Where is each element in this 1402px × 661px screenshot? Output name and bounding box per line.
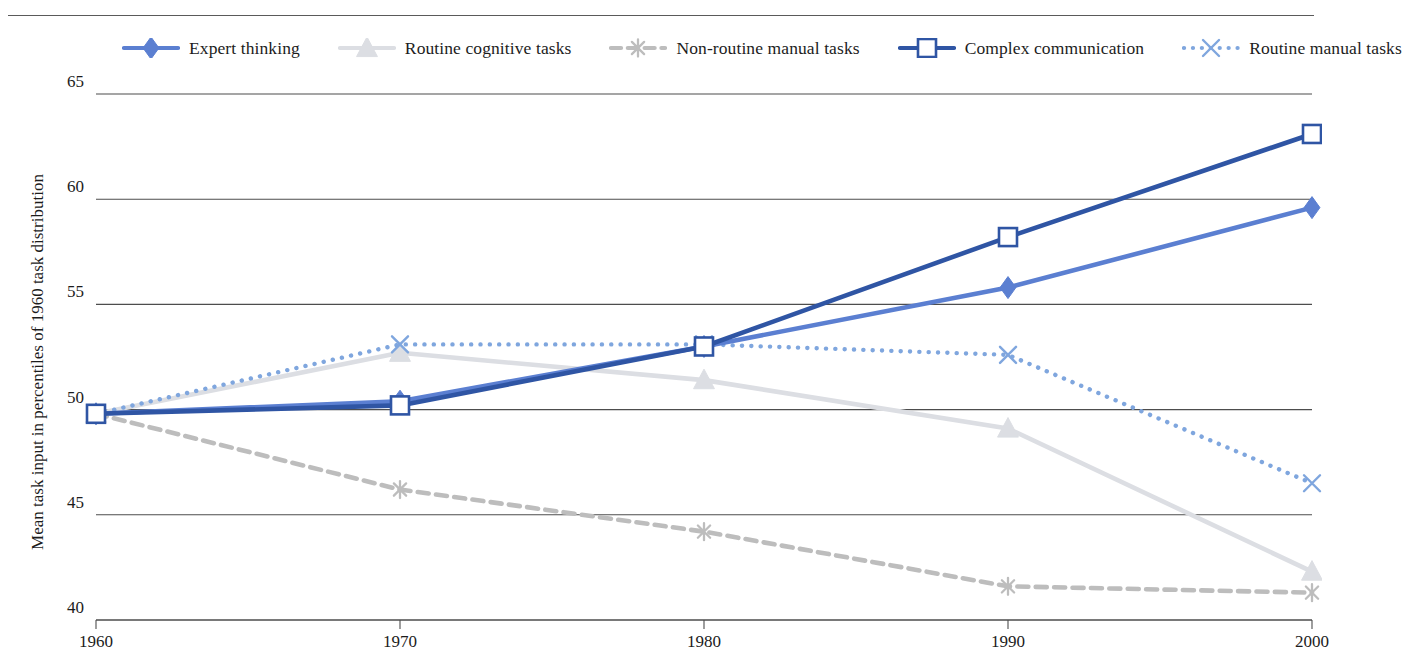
y-tick-label: 60: [44, 177, 84, 197]
series-expert-thinking: [88, 197, 1320, 425]
x-tick-label: 1960: [56, 632, 136, 652]
x-tick-label: 1980: [664, 632, 744, 652]
datapoint-marker: [1303, 125, 1321, 143]
y-tick-label: 45: [44, 493, 84, 513]
x-tick-label: 1990: [968, 632, 1048, 652]
datapoint-marker: [391, 396, 409, 414]
y-tick-label: 65: [44, 72, 84, 92]
series-line: [96, 344, 1312, 483]
datapoint-marker: [695, 337, 713, 355]
y-tick-label: 50: [44, 388, 84, 408]
datapoint-marker: [1304, 475, 1320, 491]
datapoint-marker: [1306, 584, 1318, 601]
series-routine-manual-tasks: [88, 336, 1320, 491]
y-tick-label: 40: [44, 598, 84, 618]
datapoint-marker: [999, 228, 1017, 246]
y-tick-label: 55: [44, 282, 84, 302]
datapoint-marker: [1304, 197, 1320, 219]
datapoint-marker: [87, 405, 105, 423]
x-tick-label: 1970: [360, 632, 440, 652]
datapoint-marker: [1000, 277, 1016, 299]
x-tick-label: 2000: [1272, 632, 1352, 652]
series-line: [96, 414, 1312, 593]
series-routine-cognitive-tasks: [86, 342, 1322, 580]
series-non-routine-manual-tasks: [90, 405, 1318, 601]
